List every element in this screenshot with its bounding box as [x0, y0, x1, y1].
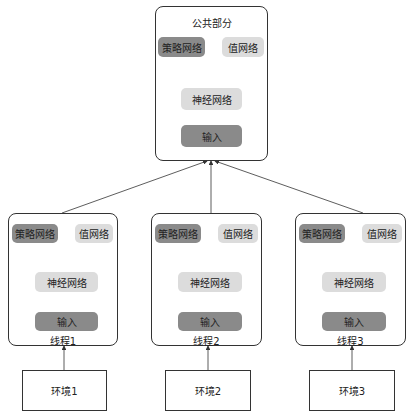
- shared-value-network: 值网络: [222, 37, 264, 57]
- thread-1-neural-network: 神经网络: [35, 272, 98, 292]
- thread-3-policy-network: 策略网络: [299, 224, 345, 243]
- thread-1-input: 输入: [35, 312, 98, 331]
- thread-1-label: 线程1: [8, 333, 118, 348]
- shared-input: 输入: [181, 125, 242, 147]
- environment-1: 环境1: [22, 370, 107, 411]
- thread-2-input: 输入: [178, 312, 242, 331]
- thread-3-label: 线程3: [295, 333, 406, 348]
- thread-2-neural-network: 神经网络: [178, 272, 242, 292]
- thread-3-input: 输入: [322, 312, 386, 331]
- environment-3: 环境3: [309, 370, 395, 411]
- thread-2-policy-network: 策略网络: [155, 224, 201, 243]
- shared-part-title: 公共部分: [155, 15, 268, 30]
- thread-2-value-network: 值网络: [218, 224, 258, 243]
- thread-1-value-network: 值网络: [75, 224, 113, 243]
- shared-neural-network: 神经网络: [181, 88, 242, 110]
- environment-2: 环境2: [165, 370, 251, 411]
- thread-3-neural-network: 神经网络: [322, 272, 386, 292]
- shared-policy-network: 策略网络: [158, 37, 205, 57]
- thread-3-value-network: 值网络: [362, 224, 402, 243]
- thread-2-label: 线程2: [151, 333, 262, 348]
- thread-1-policy-network: 策略网络: [12, 224, 58, 243]
